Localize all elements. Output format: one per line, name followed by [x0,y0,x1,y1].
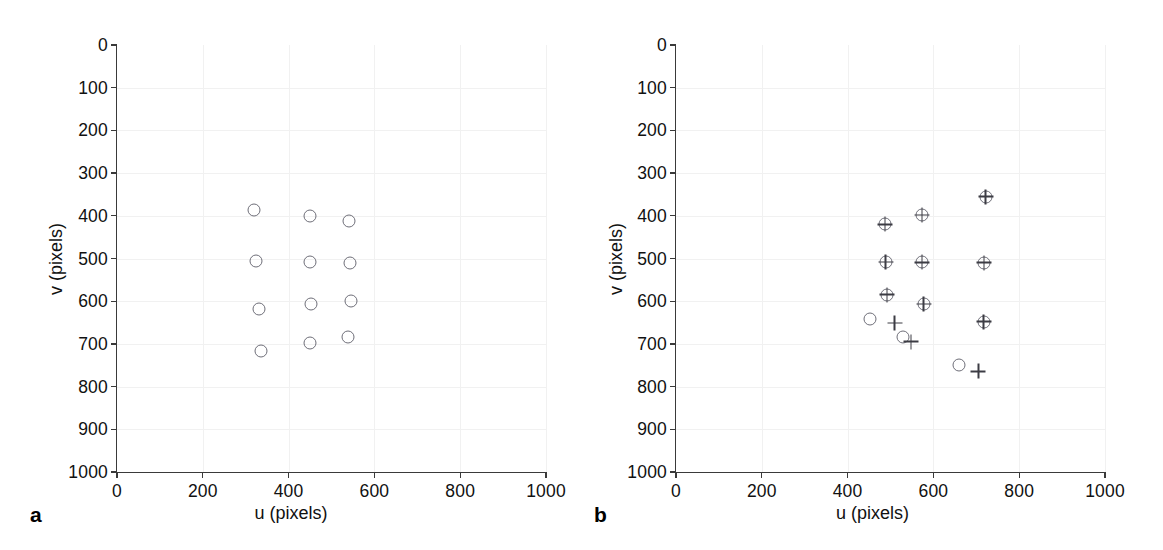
data-point-circle [342,214,355,227]
y-axis-tick-label: 100 [637,77,667,98]
x-axis-tick [374,472,375,478]
gridline-horizontal [117,301,546,302]
panel-b: 0200400600800100001002003004005006007008… [582,0,1163,550]
y-axis-tick [670,215,676,216]
gridline-horizontal [117,173,546,174]
data-point-plus [976,314,991,329]
figure-scatter-pair: 0200400600800100001002003004005006007008… [0,0,1163,550]
data-point-circle [304,298,317,311]
data-point-plus [904,334,919,349]
gridline-horizontal [676,173,1105,174]
y-axis-tick-label: 900 [78,419,108,440]
y-axis-tick-label: 1000 [627,462,667,483]
x-axis-tick-label: 800 [445,481,475,502]
y-axis-tick-label: 1000 [68,462,108,483]
data-point-circle [248,204,261,217]
y-axis-tick-label: 300 [78,163,108,184]
data-point-plus [914,255,929,270]
y-axis-tick [670,343,676,344]
y-axis-tick [670,130,676,131]
data-point-circle [304,255,317,268]
data-point-circle [254,345,267,358]
y-axis-tick-label: 300 [637,163,667,184]
y-axis-tick-label: 500 [637,248,667,269]
y-axis-tick-label: 800 [637,376,667,397]
x-axis-tick-label: 400 [833,481,863,502]
data-point-plus [877,217,892,232]
y-axis-title-b: v (pixels) [606,223,627,295]
gridline-vertical [1105,45,1106,472]
data-point-circle [304,336,317,349]
panel-a: 0200400600800100001002003004005006007008… [0,0,582,550]
x-axis-tick-label: 400 [274,481,304,502]
data-point-circle [304,209,317,222]
y-axis-tick-label: 700 [78,333,108,354]
y-axis-tick [111,130,117,131]
x-axis-tick [761,472,762,478]
x-axis-tick-label: 600 [918,481,948,502]
y-axis-tick [111,301,117,302]
y-axis-tick-label: 0 [657,35,667,56]
x-axis-tick-label: 0 [112,481,122,502]
y-axis-tick-label: 800 [78,376,108,397]
data-point-plus [880,287,895,302]
data-point-circle [252,302,265,315]
x-axis-tick-label: 600 [359,481,389,502]
y-axis-tick [670,87,676,88]
x-axis-tick [116,472,117,478]
y-axis-tick-label: 100 [78,77,108,98]
y-axis-tick [111,429,117,430]
x-axis-tick-label: 800 [1004,481,1034,502]
x-axis-title-a: u (pixels) [254,503,327,524]
y-axis-tick-label: 600 [78,291,108,312]
y-axis-tick-label: 0 [98,35,108,56]
y-axis-tick-label: 200 [78,120,108,141]
y-axis-tick-label: 700 [637,333,667,354]
x-axis-tick [847,472,848,478]
data-point-circle [953,359,966,372]
x-axis-tick-label: 1000 [1085,481,1125,502]
data-point-circle [343,256,356,269]
y-axis-tick [670,429,676,430]
gridline-horizontal [117,344,546,345]
x-axis-tick [675,472,676,478]
plot-area-b: 0200400600800100001002003004005006007008… [675,45,1105,473]
gridline-horizontal [676,387,1105,388]
gridline-horizontal [676,344,1105,345]
gridline-horizontal [676,429,1105,430]
data-point-plus [977,255,992,270]
y-axis-tick [111,258,117,259]
y-axis-tick-label: 600 [637,291,667,312]
y-axis-tick [670,44,676,45]
x-axis-title-b: u (pixels) [836,503,909,524]
data-point-plus [916,297,931,312]
y-axis-tick [670,258,676,259]
x-axis-tick-label: 200 [188,481,218,502]
y-axis-tick-label: 900 [637,419,667,440]
gridline-horizontal [676,88,1105,89]
gridline-horizontal [117,130,546,131]
y-axis-tick [670,471,676,472]
y-axis-title-a: v (pixels) [46,223,67,295]
gridline-horizontal [117,259,546,260]
y-axis-tick [111,44,117,45]
x-axis-tick-label: 0 [671,481,681,502]
y-axis-tick [670,172,676,173]
gridline-horizontal [117,216,546,217]
y-axis-tick-label: 500 [78,248,108,269]
y-axis-tick [670,301,676,302]
x-axis-tick-label: 1000 [526,481,566,502]
x-axis-tick [460,472,461,478]
y-axis-tick-label: 400 [78,205,108,226]
y-axis-tick [111,172,117,173]
x-axis-tick [202,472,203,478]
y-axis-tick-label: 400 [637,205,667,226]
y-axis-tick [111,343,117,344]
x-axis-tick [545,472,546,478]
y-axis-tick [111,215,117,216]
y-axis-tick [111,386,117,387]
gridline-horizontal [117,429,546,430]
y-axis-tick [670,386,676,387]
panel-label-b: b [594,503,607,527]
gridline-horizontal [117,88,546,89]
